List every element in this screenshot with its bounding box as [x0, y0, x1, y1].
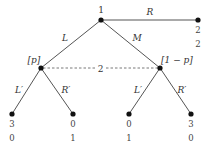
information-set-player-label: 2	[98, 64, 104, 74]
payoff-leaf4-player1: 3	[188, 119, 193, 129]
action-label-left-Lprime: L′	[14, 85, 23, 95]
payoff-leaf3-player1: 0	[126, 119, 131, 129]
payoff-leaf4-player2: 0	[188, 133, 193, 143]
root-node	[98, 17, 103, 22]
root-player-label: 1	[98, 5, 104, 15]
action-label-left-Rprime: R′	[61, 85, 71, 95]
belief-label-left: [p]	[28, 55, 41, 65]
payoff-leaf1-player2: 0	[9, 133, 14, 143]
edge-M	[101, 20, 160, 68]
decision-node-right	[157, 65, 162, 70]
game-tree: 2 1 L M R 2 2 [p] [1 − p] L′ R′ L′ R′ 3 …	[0, 0, 209, 148]
action-label-R: R	[146, 7, 154, 17]
terminal-node-R	[195, 17, 200, 22]
action-label-L: L	[61, 33, 68, 43]
leaf-node-3	[126, 111, 131, 116]
edge-L	[41, 20, 101, 68]
payoff-leaf2-player1: 0	[70, 119, 75, 129]
payoff-leaf3-player2: 1	[126, 133, 131, 143]
action-label-M: M	[131, 33, 142, 43]
action-label-right-Rprime: R′	[177, 85, 187, 95]
leaf-node-2	[70, 111, 75, 116]
leaf-node-1	[9, 111, 14, 116]
payoff-R-player1: 2	[195, 25, 200, 35]
payoff-leaf1-player1: 3	[9, 119, 14, 129]
action-label-right-Lprime: L′	[133, 85, 142, 95]
payoff-leaf2-player2: 1	[70, 133, 75, 143]
belief-label-right: [1 − p]	[161, 55, 193, 65]
decision-node-left	[38, 65, 43, 70]
leaf-node-4	[188, 111, 193, 116]
payoff-R-player2: 2	[195, 39, 200, 49]
